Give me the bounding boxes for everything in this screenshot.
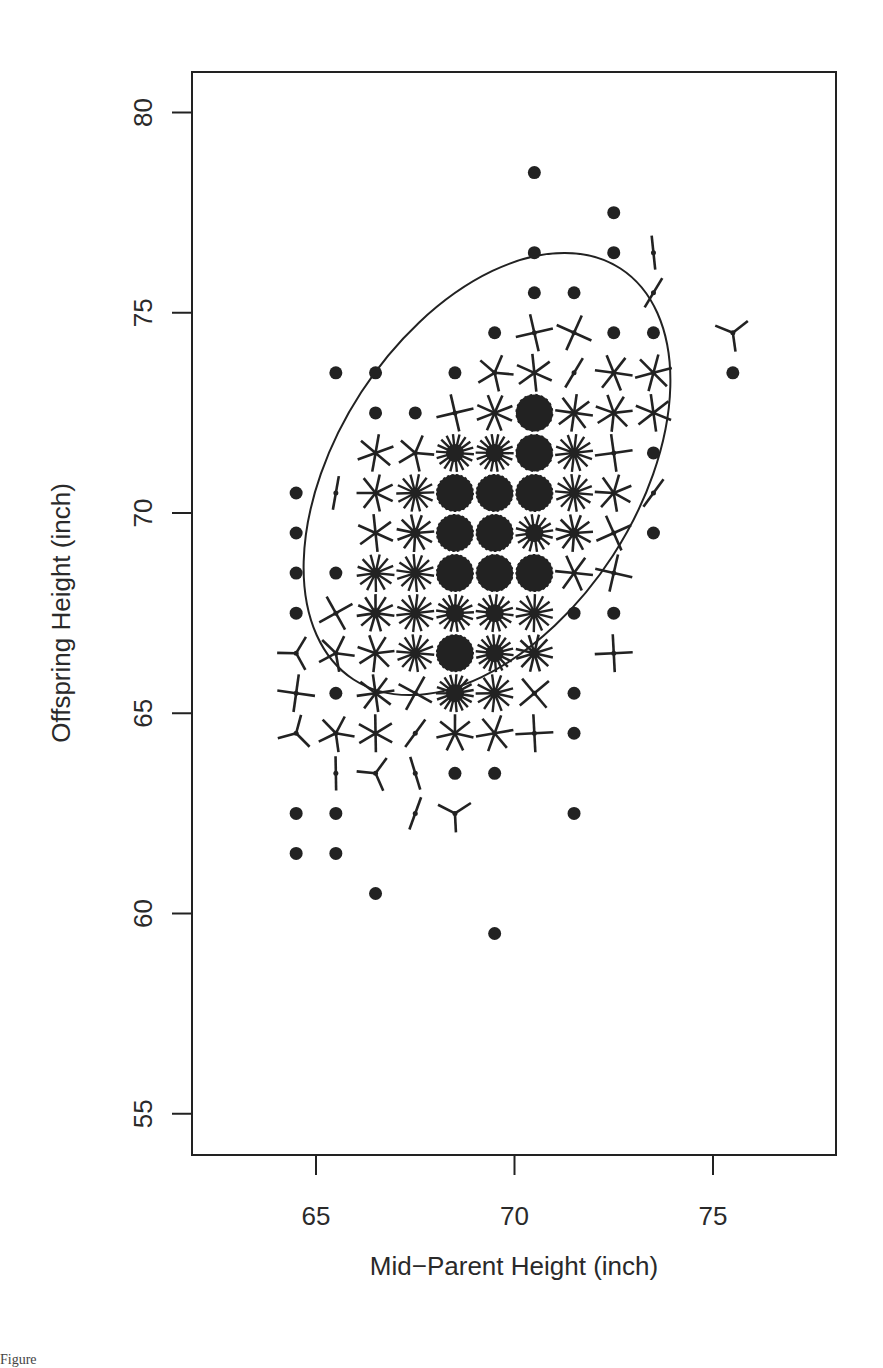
sunflower-point — [278, 715, 310, 747]
sunflower-point — [715, 321, 748, 352]
sunflower-point — [476, 715, 513, 751]
sunflower-point — [405, 719, 425, 747]
sunflower-point — [488, 326, 501, 339]
sunflower-point — [290, 847, 303, 860]
sunflower-point — [359, 714, 392, 752]
x-axis-label: Mid−Parent Height (inch) — [370, 1251, 658, 1281]
sunflower-point — [436, 674, 474, 712]
sunflower-point — [595, 355, 633, 390]
sunflower-point — [333, 756, 338, 790]
sunflower-point — [436, 474, 474, 512]
plot-border — [192, 72, 836, 1155]
sunflower-point — [448, 366, 461, 379]
sunflower-point — [409, 406, 422, 419]
sunflower-point — [357, 474, 393, 511]
sunflower-point — [520, 679, 549, 708]
sunflower-point — [478, 355, 513, 391]
x-tick-label: 75 — [699, 1201, 728, 1231]
ellipse-outline — [228, 187, 746, 761]
sunflower-point — [290, 567, 303, 580]
sunflower-point — [358, 514, 393, 552]
sunflower-point — [436, 394, 473, 431]
sunflower-point — [607, 206, 620, 219]
sunflower-point — [358, 434, 394, 471]
sunflower-point — [290, 486, 303, 499]
sunflower-point — [516, 314, 553, 351]
sunflower-point — [515, 554, 553, 592]
sunflower-point — [329, 847, 342, 860]
sunflower-point — [488, 767, 501, 780]
sunflower-point — [436, 714, 473, 750]
sunflower-point — [477, 395, 512, 430]
sunflower-point — [476, 434, 514, 472]
sunflower-point — [369, 366, 382, 379]
x-tick-label: 70 — [500, 1201, 529, 1231]
sunflower-point — [555, 556, 593, 591]
sunflower-point — [476, 554, 514, 592]
sunflower-point — [396, 474, 434, 511]
sunflower-point — [515, 714, 553, 752]
sunflower-point — [410, 757, 420, 790]
sunflower-point — [369, 406, 382, 419]
sunflower-point — [476, 594, 514, 632]
sunflower-point — [476, 634, 514, 672]
sunflower-point — [396, 634, 434, 672]
sunflower-point — [290, 527, 303, 540]
sunflower-point — [396, 594, 434, 632]
sunflower-point — [595, 634, 633, 672]
sunflower-point — [290, 807, 303, 820]
sunflower-point — [515, 394, 553, 432]
sunflower-point — [333, 476, 339, 510]
sunflower-point — [516, 594, 553, 632]
sunflower-point — [438, 803, 471, 832]
sunflower-point — [647, 326, 660, 339]
sunflower-point — [568, 727, 581, 740]
y-tick-label: 60 — [128, 899, 158, 928]
sunflower-point — [369, 887, 382, 900]
sunflower-point — [290, 607, 303, 620]
sunflower-point — [436, 594, 474, 632]
sunflower-point — [555, 394, 593, 432]
sunflower-point — [596, 395, 633, 432]
sunflower-points — [277, 166, 748, 940]
sunflower-point — [568, 807, 581, 820]
y-axis: 556065707580 — [128, 98, 192, 1128]
sunflower-point — [357, 758, 387, 791]
sunflower-point — [357, 555, 395, 593]
sunflower-point — [528, 246, 541, 259]
sunflower-point — [516, 434, 554, 472]
sunflower-point — [607, 326, 620, 339]
sunflower-point — [396, 554, 434, 592]
sunflower-point — [436, 634, 474, 672]
y-tick-label: 70 — [128, 499, 158, 528]
sunflower-point — [436, 554, 474, 592]
concentration-ellipse — [228, 187, 746, 761]
sunflower-point — [329, 807, 342, 820]
sunflower-point — [399, 435, 434, 471]
sunflower-point — [556, 514, 593, 552]
figure-caption: Figure — [0, 1352, 37, 1368]
x-axis: 657075 — [302, 1155, 728, 1231]
sunflower-point — [607, 607, 620, 620]
sunflower-point — [517, 354, 552, 392]
sunflower-point — [319, 597, 352, 630]
sunflower-point — [358, 635, 395, 672]
sunflower-point — [595, 475, 632, 512]
sunflower-point — [555, 474, 593, 512]
sunflower-point — [515, 474, 553, 512]
sunflower-point — [436, 514, 474, 552]
x-tick-label: 65 — [302, 1201, 331, 1231]
sunflower-point — [277, 637, 306, 670]
sunflower-point — [568, 687, 581, 700]
sunflower-point — [357, 594, 395, 631]
sunflower-point — [635, 354, 672, 391]
y-tick-label: 75 — [128, 298, 158, 327]
y-tick-label: 55 — [128, 1099, 158, 1128]
plot-frame — [192, 72, 836, 1155]
sunflower-point — [595, 434, 633, 472]
sunflower-point — [329, 366, 342, 379]
sunflower-point — [647, 527, 660, 540]
sunflower-point — [448, 767, 461, 780]
sunflower-point — [647, 446, 660, 459]
